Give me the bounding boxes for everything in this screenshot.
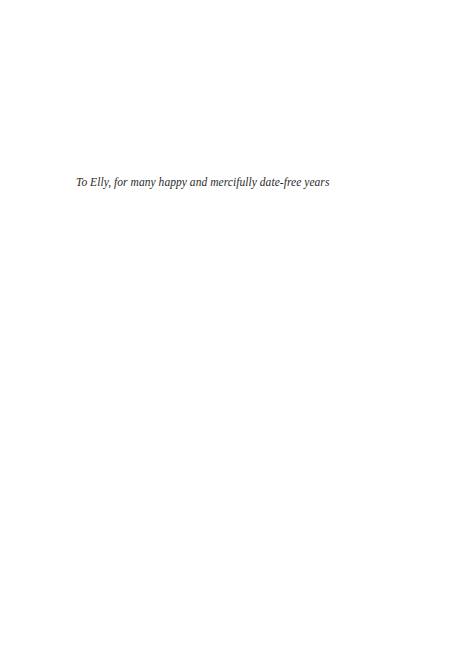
dedication-text: To Elly, for many happy and mercifully d… — [76, 176, 329, 188]
document-page: To Elly, for many happy and mercifully d… — [0, 0, 453, 665]
